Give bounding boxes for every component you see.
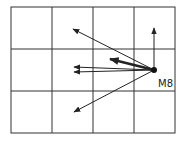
origin-point [151,67,157,73]
vector-grid-diagram [0,0,183,143]
arrows [73,28,154,112]
arrow-left-lower-icon [74,70,154,72]
origin-label: M8 [158,79,173,89]
